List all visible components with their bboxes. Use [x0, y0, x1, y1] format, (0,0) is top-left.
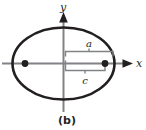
- focal-distance-label: c: [82, 75, 88, 86]
- ellipse-diagram-canvas: a c y x (b): [0, 0, 146, 130]
- ellipse-figure: a c y x (b): [0, 0, 146, 130]
- y-axis-label: y: [59, 1, 67, 14]
- x-axis-label: x: [136, 57, 143, 70]
- left-focus-point-icon: [22, 60, 29, 67]
- figure-caption: (b): [58, 114, 76, 127]
- semi-major-label: a: [86, 38, 92, 49]
- right-focus-point-icon: [102, 60, 109, 67]
